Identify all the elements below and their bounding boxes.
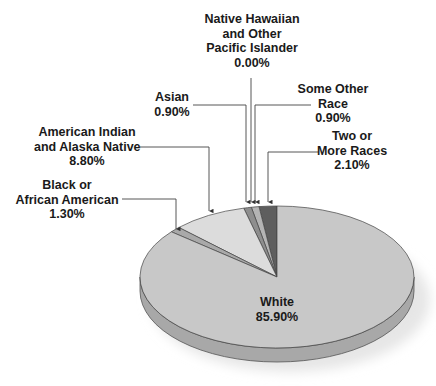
label-white: White 85.90% — [246, 295, 308, 324]
label-value: 0.00% — [200, 56, 304, 71]
label-text: Black or — [12, 178, 122, 193]
label-value: 85.90% — [246, 310, 308, 325]
leader-asian — [193, 105, 246, 202]
label-value: 0.90% — [150, 105, 194, 120]
label-text: and Alaska Native — [34, 140, 140, 155]
label-two: Two or More Races 2.10% — [314, 129, 390, 173]
label-text: and Other — [200, 27, 304, 42]
label-text: Some Other — [296, 82, 370, 97]
label-text: Native Hawaiian — [200, 12, 304, 27]
label-text: African American — [12, 193, 122, 208]
leader-aian — [140, 147, 209, 211]
label-text: White — [246, 295, 308, 310]
label-nhpi: Native Hawaiian and Other Pacific Island… — [200, 12, 304, 70]
label-value: 0.90% — [296, 111, 370, 126]
label-aian: American Indian and Alaska Native 8.80% — [34, 125, 140, 169]
label-value: 2.10% — [314, 158, 390, 173]
label-text: More Races — [314, 144, 390, 159]
label-text: Asian — [150, 90, 194, 105]
label-black: Black or African American 1.30% — [12, 178, 122, 222]
label-text: American Indian — [34, 125, 140, 140]
label-text: Two or — [314, 129, 390, 144]
label-text: Pacific Islander — [200, 41, 304, 56]
label-value: 8.80% — [34, 154, 140, 169]
label-other: Some Other Race 0.90% — [296, 82, 370, 126]
leader-black — [122, 199, 176, 229]
label-value: 1.30% — [12, 207, 122, 222]
pie-slices — [140, 206, 414, 348]
label-text: Race — [296, 97, 370, 112]
leader-two — [268, 152, 318, 202]
label-asian: Asian 0.90% — [150, 90, 194, 119]
